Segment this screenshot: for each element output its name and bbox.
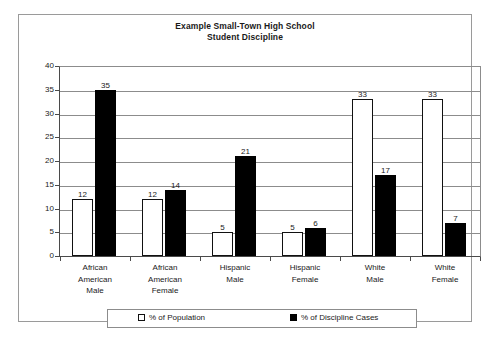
x-axis-tick-mark xyxy=(340,257,341,261)
y-axis-tick-label: 35 xyxy=(26,85,54,94)
chart-frame: Example Small-Town High School Student D… xyxy=(18,14,472,322)
x-axis-category-label-line: Male xyxy=(340,274,410,286)
y-axis-tick-mark xyxy=(55,256,59,257)
bars-layer: 12351214521563317337 xyxy=(60,66,480,256)
legend-label-discipline: % of Discipline Cases xyxy=(301,313,378,322)
bar-group: 1235 xyxy=(60,66,130,256)
x-axis-category-label: HispanicMale xyxy=(200,262,270,285)
x-axis-category-label-line: American xyxy=(60,274,130,286)
bar-population: 5 xyxy=(282,232,303,256)
bar-value-label: 33 xyxy=(358,90,367,99)
y-axis-tick-label: 0 xyxy=(26,251,54,260)
bar-value-label: 12 xyxy=(78,190,87,199)
x-axis-category-label-line: Female xyxy=(130,285,200,297)
x-axis-category-label-line: African xyxy=(130,262,200,274)
x-axis-category-label: AfricanAmericanFemale xyxy=(130,262,200,297)
y-axis-tick-labels: 0510152025303540 xyxy=(24,66,54,257)
bar-group: 56 xyxy=(270,66,340,256)
x-axis-category-label-line: American xyxy=(130,274,200,286)
x-axis-category-label-line: Hispanic xyxy=(200,262,270,274)
x-axis-category-label: AfricanAmericanMale xyxy=(60,262,130,297)
bar-value-label: 7 xyxy=(453,214,457,223)
x-axis-category-label-line: White xyxy=(410,262,480,274)
y-axis-tick-mark xyxy=(55,66,59,67)
bar-population: 33 xyxy=(422,99,443,256)
x-axis-category-labels: AfricanAmericanMaleAfricanAmericanFemale… xyxy=(60,262,480,304)
bar-discipline: 6 xyxy=(305,228,326,257)
bar-discipline: 35 xyxy=(95,90,116,256)
bar-value-label: 33 xyxy=(428,90,437,99)
x-axis-tick-mark xyxy=(480,257,481,261)
x-axis-category-label: WhiteMale xyxy=(340,262,410,285)
y-axis-tick-mark xyxy=(55,90,59,91)
x-axis-category-label: HispanicFemale xyxy=(270,262,340,285)
bar-discipline: 21 xyxy=(235,156,256,256)
x-axis-tick-mark xyxy=(200,257,201,261)
x-axis-category-label-line: African xyxy=(60,262,130,274)
x-axis-category-label: WhiteFemale xyxy=(410,262,480,285)
y-axis-tick-label: 15 xyxy=(26,180,54,189)
x-axis-tick-mark xyxy=(270,257,271,261)
x-axis-category-label-line: White xyxy=(340,262,410,274)
x-axis-tick-mark xyxy=(130,257,131,261)
y-axis-tick-mark xyxy=(55,137,59,138)
chart-title: Example Small-Town High School Student D… xyxy=(19,21,471,43)
bar-group: 1214 xyxy=(130,66,200,256)
bar-value-label: 21 xyxy=(241,147,250,156)
legend-swatch-population-icon xyxy=(138,314,145,321)
x-axis-category-label-line: Female xyxy=(410,274,480,286)
legend-entry-discipline: % of Discipline Cases xyxy=(290,313,378,322)
bar-value-label: 5 xyxy=(290,223,294,232)
y-axis-tick-label: 20 xyxy=(26,156,54,165)
legend-swatch-discipline-icon xyxy=(290,314,297,321)
x-axis-tick-mark xyxy=(60,257,61,261)
bar-discipline: 17 xyxy=(375,175,396,256)
bar-group: 3317 xyxy=(340,66,410,256)
chart-title-line-2: Student Discipline xyxy=(19,32,471,43)
bar-value-label: 12 xyxy=(148,190,157,199)
bar-population: 12 xyxy=(142,199,163,256)
y-axis-tick-label: 10 xyxy=(26,204,54,213)
bar-value-label: 5 xyxy=(220,223,224,232)
y-axis-tick-mark xyxy=(55,114,59,115)
y-axis-tick-label: 30 xyxy=(26,109,54,118)
bar-value-label: 17 xyxy=(381,166,390,175)
bar-value-label: 35 xyxy=(101,81,110,90)
bar-group: 521 xyxy=(200,66,270,256)
x-axis-category-label-line: Male xyxy=(200,274,270,286)
y-axis-tick-mark xyxy=(55,161,59,162)
x-axis-tick-mark xyxy=(410,257,411,261)
chart-legend: % of Population % of Discipline Cases xyxy=(107,309,417,328)
y-axis-tick-label: 40 xyxy=(26,61,54,70)
bar-population: 33 xyxy=(352,99,373,256)
bar-value-label: 6 xyxy=(313,219,317,228)
bar-value-label: 14 xyxy=(171,181,180,190)
y-axis-tick-mark xyxy=(55,232,59,233)
y-axis-tick-label: 5 xyxy=(26,227,54,236)
legend-entry-population: % of Population xyxy=(138,313,205,322)
y-axis-tick-label: 25 xyxy=(26,132,54,141)
x-axis-category-label-line: Male xyxy=(60,285,130,297)
bar-discipline: 7 xyxy=(445,223,466,256)
y-axis-tick-mark xyxy=(55,185,59,186)
legend-label-population: % of Population xyxy=(149,313,205,322)
y-axis-tick-mark xyxy=(55,209,59,210)
bar-group: 337 xyxy=(410,66,480,256)
chart-title-line-1: Example Small-Town High School xyxy=(19,21,471,32)
x-axis-category-label-line: Female xyxy=(270,274,340,286)
bar-population: 5 xyxy=(212,232,233,256)
bar-population: 12 xyxy=(72,199,93,256)
x-axis-category-label-line: Hispanic xyxy=(270,262,340,274)
bar-discipline: 14 xyxy=(165,190,186,257)
